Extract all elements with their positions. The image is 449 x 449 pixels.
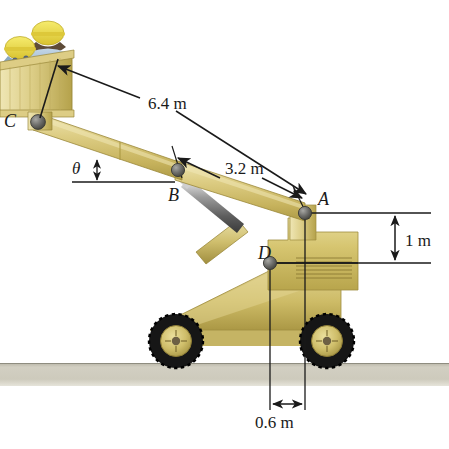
joint-pin-c — [31, 115, 46, 130]
point-label-c: C — [4, 112, 16, 130]
wheel-front — [300, 314, 354, 368]
dimension-label-6-4m: 6.4 m — [148, 95, 187, 112]
joint-pin-b — [171, 163, 184, 176]
dimension-label-1m: 1 m — [405, 232, 431, 249]
wheel-rear — [149, 314, 203, 368]
dimension-label-3-2m: 3.2 m — [225, 160, 264, 177]
dimension-label-0-6m: 0.6 m — [255, 414, 294, 431]
boom-lower-c-to-b — [33, 112, 182, 180]
point-label-a: A — [318, 190, 329, 208]
ground-surface — [0, 363, 449, 386]
point-label-d: D — [258, 244, 271, 262]
angle-label-theta: θ — [72, 160, 80, 177]
point-label-b: B — [168, 186, 179, 204]
joint-pin-a — [298, 206, 311, 219]
boom-lift-diagram — [0, 0, 449, 449]
